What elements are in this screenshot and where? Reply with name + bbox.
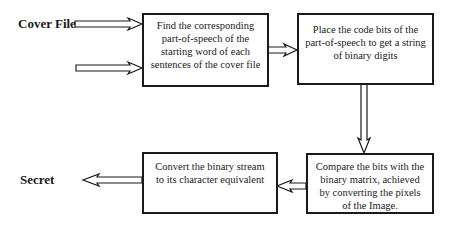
place-bits-box: Place the code bits of the part-of-speec… [297,13,434,85]
arrow-place-to-compare [358,84,370,153]
secret-label: Secret [20,172,54,188]
arrow-compare-to-convert [277,180,306,192]
compare-bits-text: Compare the bits with the binary matrix,… [316,161,424,211]
arrow-input-to-find [76,62,142,74]
compare-bits-box: Compare the bits with the binary matrix,… [306,153,434,214]
convert-stream-box: Convert the binary stream to its charact… [142,152,278,214]
cover-file-label: Cover File [18,16,76,32]
arrow-convert-to-secret [83,174,142,186]
find-pos-text: Find the corresponding part-of-speech of… [151,20,261,70]
place-bits-text: Place the code bits of the part-of-speec… [305,24,426,61]
arrow-cover-file-to-find [75,18,142,30]
find-pos-box: Find the corresponding part-of-speech of… [142,13,269,87]
arrow-find-to-place [268,44,297,56]
convert-stream-text: Convert the binary stream to its charact… [155,161,264,185]
